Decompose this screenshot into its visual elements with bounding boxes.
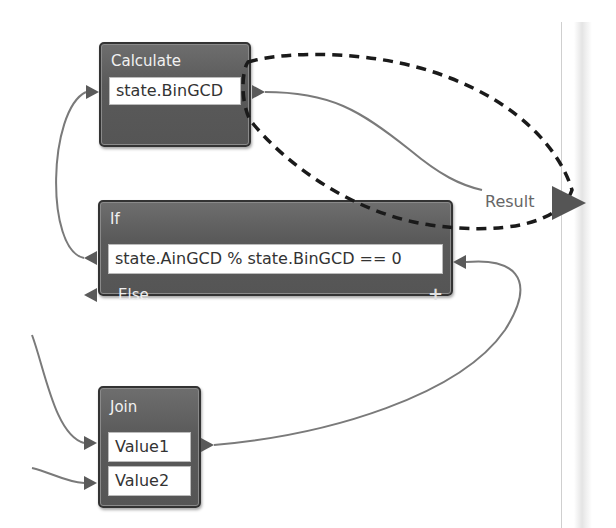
calculate-node[interactable]: Calculate state.BinGCD xyxy=(99,42,251,147)
if-node-title: If xyxy=(110,210,120,228)
if-input-port[interactable] xyxy=(453,255,466,269)
if-then-output-port[interactable] xyxy=(84,251,97,265)
if-else-output-port[interactable] xyxy=(84,288,97,302)
join-output-port[interactable] xyxy=(201,438,214,452)
join-input-value1[interactable]: Value1 xyxy=(108,432,191,462)
join-node-title: Join xyxy=(110,398,137,416)
result-output-label: Result xyxy=(485,192,534,211)
side-panel-edge[interactable] xyxy=(574,22,592,528)
add-branch-icon[interactable]: + xyxy=(428,283,443,304)
join-value2-input-port[interactable] xyxy=(84,476,97,490)
wire-calculate-to-result[interactable] xyxy=(265,92,482,190)
calculate-input-port[interactable] xyxy=(86,85,99,99)
calculate-node-title: Calculate xyxy=(111,52,181,70)
calculate-expression-field[interactable]: state.BinGCD xyxy=(109,77,241,105)
calculate-output-port[interactable] xyxy=(252,85,265,99)
if-condition-field[interactable]: state.AinGCD % state.BinGCD == 0 xyxy=(108,244,443,274)
join-input-value2[interactable]: Value2 xyxy=(108,466,191,496)
wire-external-to-value1[interactable] xyxy=(32,335,84,443)
result-output-port[interactable] xyxy=(552,186,586,220)
if-node[interactable]: If state.AinGCD % state.BinGCD == 0 Else xyxy=(98,200,453,296)
wire-if-to-calculate[interactable] xyxy=(56,92,86,258)
wire-external-to-value2[interactable] xyxy=(32,468,84,483)
join-node[interactable]: Join Value1 Value2 xyxy=(98,386,201,508)
canvas-divider xyxy=(561,22,562,528)
join-value1-input-port[interactable] xyxy=(84,436,97,450)
workflow-canvas[interactable]: Calculate state.BinGCD If state.AinGCD %… xyxy=(0,0,616,528)
else-branch-label: Else xyxy=(118,286,149,304)
